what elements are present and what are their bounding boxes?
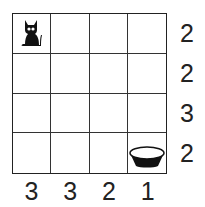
grid-cell-r1-c3[interactable] <box>128 54 166 94</box>
puzzle-grid <box>12 13 167 174</box>
cat-icon <box>20 18 44 48</box>
grid-cell-r0-c2[interactable] <box>90 14 128 54</box>
row-clue-2: 3 <box>170 94 204 134</box>
grid-cell-r1-c0[interactable] <box>13 54 51 94</box>
grid-cell-r0-c0[interactable] <box>13 14 51 54</box>
column-clue-2: 2 <box>90 175 129 207</box>
column-clue-1: 3 <box>51 175 90 207</box>
column-clues: 3 3 2 1 <box>12 175 167 207</box>
grid-cell-r1-c2[interactable] <box>90 54 128 94</box>
grid-cell-r3-c2[interactable] <box>90 133 128 173</box>
row-clue-3: 2 <box>170 134 204 174</box>
grid-cell-r0-c3[interactable] <box>128 14 166 54</box>
row-clue-0: 2 <box>170 13 204 53</box>
grid-cell-r2-c2[interactable] <box>90 94 128 134</box>
grid-cell-r3-c3[interactable] <box>128 133 166 173</box>
grid-cell-r3-c1[interactable] <box>51 133 89 173</box>
grid-cell-r0-c1[interactable] <box>51 14 89 54</box>
column-clue-0: 3 <box>12 175 51 207</box>
grid-cell-r2-c0[interactable] <box>13 94 51 134</box>
grid-cell-r2-c3[interactable] <box>128 94 166 134</box>
grid-cell-r2-c1[interactable] <box>51 94 89 134</box>
grid-cell-r1-c1[interactable] <box>51 54 89 94</box>
column-clue-3: 1 <box>128 175 167 207</box>
row-clues: 2 2 3 2 <box>170 13 204 174</box>
bowl-icon <box>128 145 166 169</box>
row-clue-1: 2 <box>170 53 204 93</box>
grid-cell-r3-c0[interactable] <box>13 133 51 173</box>
